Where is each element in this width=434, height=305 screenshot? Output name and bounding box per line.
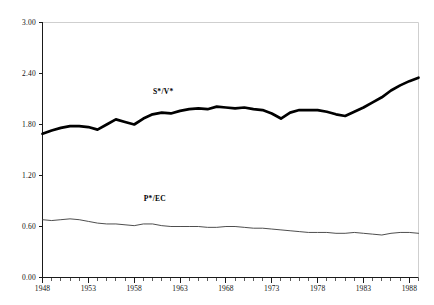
chart-figure: 0.000.601.201.802.403.001948195319581963… — [0, 0, 434, 305]
axis-frame-faint — [43, 23, 419, 278]
axis-spines — [43, 23, 419, 278]
x-axis-tick-label: 1973 — [252, 284, 292, 293]
x-axis-tick-label: 1963 — [160, 284, 200, 293]
x-axis-tick-label: 1983 — [343, 284, 383, 293]
series-line-sv — [43, 78, 419, 134]
x-axis-tick-label: 1988 — [389, 284, 429, 293]
series-annotation: P*/EC — [144, 194, 166, 203]
x-axis-tick-label: 1948 — [23, 284, 63, 293]
y-axis-tick-label: 0.00 — [2, 273, 36, 282]
series-annotation: S*/V* — [153, 87, 174, 96]
y-axis-tick-label: 2.40 — [2, 69, 36, 78]
line-chart-canvas — [0, 0, 434, 305]
x-axis-tick-label: 1978 — [298, 284, 338, 293]
y-axis-tick-label: 1.80 — [2, 120, 36, 129]
y-axis-tick-label: 0.60 — [2, 222, 36, 231]
x-axis-tick-label: 1953 — [68, 284, 108, 293]
y-axis-tick-label: 3.00 — [2, 18, 36, 27]
series-line-pec — [43, 219, 419, 235]
x-axis-tick-label: 1958 — [114, 284, 154, 293]
x-axis-tick-label: 1968 — [206, 284, 246, 293]
y-axis-tick-label: 1.20 — [2, 171, 36, 180]
